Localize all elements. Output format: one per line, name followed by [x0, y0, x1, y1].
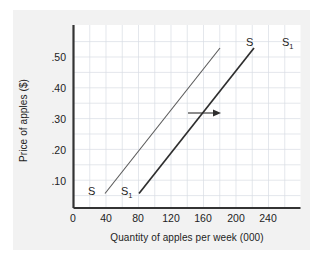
series-label-s1-top: S1 — [282, 36, 294, 51]
x-axis-title: Quantity of apples per week (000) — [73, 232, 301, 243]
x-tick-label-80: 80 — [125, 212, 151, 224]
x-tick-label-120: 120 — [158, 212, 184, 224]
x-tick-label-200: 200 — [223, 212, 249, 224]
y-tick-label-20: .20 — [40, 144, 66, 156]
y-tick-label-10: .10 — [40, 175, 66, 187]
series-label-s-top-text: S — [246, 36, 253, 48]
x-tick-label-0: 0 — [60, 212, 86, 224]
series-label-s1-bottom-subscript: 1 — [128, 191, 132, 200]
y-tick-label-50: .50 — [40, 51, 66, 63]
series-label-s-bottom: S — [88, 185, 95, 197]
y-tick-label-40: .40 — [40, 82, 66, 94]
x-tick-label-160: 160 — [190, 212, 216, 224]
series-label-s1-bottom: S1 — [121, 185, 133, 200]
series-label-s-bottom-text: S — [88, 185, 95, 197]
series-label-s-top: S — [246, 36, 253, 48]
series-label-s1-top-subscript: 1 — [289, 42, 293, 51]
y-tick-label-30: .30 — [40, 113, 66, 125]
supply-curve-chart: .50 .40 .30 .20 .10 0 40 80 120 160 200 … — [0, 0, 325, 262]
x-tick-label-40: 40 — [93, 212, 119, 224]
y-axis-title: Price of apples ($) — [18, 51, 29, 191]
x-tick-label-240: 240 — [255, 212, 281, 224]
